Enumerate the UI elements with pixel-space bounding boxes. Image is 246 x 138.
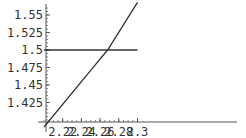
x-tick-label: 2.3	[127, 125, 149, 138]
line-chart: 1.551.5251.51.4751.451.425 2.222.242.262…	[0, 0, 246, 138]
y-tick-label: 1.525	[7, 26, 43, 40]
y-tick-label: 1.45	[14, 78, 43, 92]
y-tick-label: 1.425	[7, 96, 43, 110]
y-axis: 1.551.5251.51.4751.451.425	[7, 4, 50, 132]
plot-area	[44, 2, 138, 127]
y-tick-label: 1.5	[21, 43, 43, 57]
y-tick-label: 1.475	[7, 61, 43, 75]
y-tick-label: 1.55	[14, 8, 43, 22]
series-increasing-curve	[44, 2, 138, 127]
x-axis: 2.222.242.262.282.3	[38, 118, 237, 138]
